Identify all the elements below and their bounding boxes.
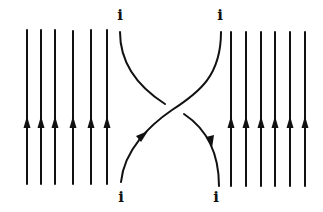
arrow-down-icon bbox=[206, 135, 214, 148]
braid-diagram bbox=[0, 0, 323, 212]
label-top-left: i bbox=[117, 8, 123, 23]
label-bottom-right: i bbox=[213, 190, 219, 205]
up-arrow-icon bbox=[258, 116, 265, 128]
up-arrow-icon bbox=[228, 116, 235, 128]
under-strand-upper bbox=[120, 32, 165, 104]
crossing bbox=[120, 32, 221, 186]
up-arrow-icon bbox=[104, 116, 111, 128]
label-bottom-left: i bbox=[118, 190, 124, 205]
up-arrow-icon bbox=[287, 116, 294, 128]
up-arrow-icon bbox=[38, 116, 45, 128]
over-strand bbox=[121, 32, 221, 182]
left-strand-group bbox=[24, 30, 111, 184]
up-arrow-icon bbox=[302, 116, 309, 128]
up-arrow-icon bbox=[243, 116, 250, 128]
label-top-right: i bbox=[217, 8, 223, 23]
up-arrow-icon bbox=[70, 116, 77, 128]
up-arrow-icon bbox=[272, 116, 279, 128]
up-arrow-icon bbox=[88, 116, 95, 128]
up-arrow-icon bbox=[24, 116, 31, 128]
up-arrow-icon bbox=[52, 116, 59, 128]
right-strand-group bbox=[228, 32, 309, 186]
under-strand-lower bbox=[184, 114, 219, 186]
